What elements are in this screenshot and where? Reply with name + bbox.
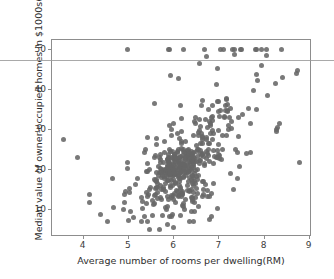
data-point [140, 206, 145, 211]
data-point [209, 214, 214, 219]
data-point [254, 107, 259, 112]
data-point [205, 188, 210, 193]
data-point [171, 193, 176, 198]
data-point [297, 160, 302, 165]
x-tick-mark [83, 236, 84, 239]
data-point [248, 150, 253, 155]
data-point [229, 119, 234, 124]
data-point [168, 183, 173, 188]
data-point [255, 78, 260, 83]
data-point [145, 161, 150, 166]
data-point [203, 182, 208, 187]
data-point [235, 176, 240, 181]
data-point [214, 82, 219, 87]
data-point [154, 136, 159, 141]
data-point [211, 148, 216, 153]
x-tick-mark [218, 236, 219, 239]
data-point [171, 167, 176, 172]
data-point [165, 204, 170, 209]
data-point [279, 47, 284, 52]
data-point [215, 206, 220, 211]
data-point [181, 47, 186, 52]
data-point [219, 157, 224, 162]
data-points-layer [52, 40, 310, 235]
data-point [122, 192, 127, 197]
data-point [186, 163, 191, 168]
data-point [177, 183, 182, 188]
data-point [147, 227, 152, 232]
data-point [199, 153, 204, 158]
data-point [200, 135, 205, 140]
data-point [143, 147, 148, 152]
data-point [210, 114, 215, 119]
data-point [223, 108, 228, 113]
data-point [125, 47, 130, 52]
data-point [211, 131, 216, 136]
data-point [233, 147, 238, 152]
data-point [224, 133, 229, 138]
y-tick-mark [48, 89, 51, 90]
data-point [195, 167, 200, 172]
data-point [215, 66, 220, 71]
data-point [157, 155, 162, 160]
data-point [125, 160, 130, 165]
data-point [155, 196, 160, 201]
data-point [199, 103, 204, 108]
data-point [280, 75, 285, 80]
x-tick-label: 5 [118, 240, 138, 251]
data-point [231, 187, 236, 192]
data-point [204, 54, 209, 59]
data-point [168, 73, 173, 78]
data-point [185, 188, 190, 193]
data-point [174, 155, 179, 160]
data-point [210, 137, 215, 142]
data-point [206, 153, 211, 158]
x-tick-label: 9 [299, 240, 319, 251]
data-point [161, 187, 166, 192]
data-point [222, 114, 227, 119]
data-point [125, 166, 130, 171]
data-point [211, 181, 216, 186]
scatter-plot-figure: 456789 1020304050 Average number of room… [0, 0, 334, 279]
data-point [180, 189, 185, 194]
data-point [110, 176, 115, 181]
data-point [145, 219, 150, 224]
data-point [207, 141, 212, 146]
x-tick-label: 8 [254, 240, 274, 251]
data-point [177, 171, 182, 176]
data-point [264, 47, 269, 52]
data-point [216, 142, 221, 147]
data-point [178, 213, 183, 218]
data-point [209, 191, 214, 196]
y-tick-mark [48, 209, 51, 210]
data-point [203, 117, 208, 122]
data-point [215, 99, 220, 104]
data-point [220, 147, 225, 152]
data-point [145, 135, 150, 140]
data-point [111, 205, 116, 210]
data-point [192, 119, 197, 124]
data-point [236, 134, 241, 139]
data-point [139, 219, 144, 224]
y-tick-mark [48, 49, 51, 50]
data-point [173, 200, 178, 205]
horizontal-rule-artifact [0, 60, 334, 61]
data-point [216, 109, 221, 114]
data-point [87, 200, 92, 205]
data-point [135, 176, 140, 181]
data-point [200, 194, 205, 199]
data-point [122, 200, 127, 205]
data-point [225, 102, 230, 107]
data-point [182, 169, 187, 174]
data-point [232, 52, 237, 57]
data-point [152, 101, 157, 106]
data-point [162, 139, 167, 144]
data-point [240, 112, 245, 117]
data-point [228, 171, 233, 176]
data-point [152, 201, 157, 206]
data-point [177, 165, 182, 170]
data-point [178, 103, 183, 108]
data-point [144, 169, 149, 174]
data-point [191, 155, 196, 160]
data-point [208, 123, 213, 128]
